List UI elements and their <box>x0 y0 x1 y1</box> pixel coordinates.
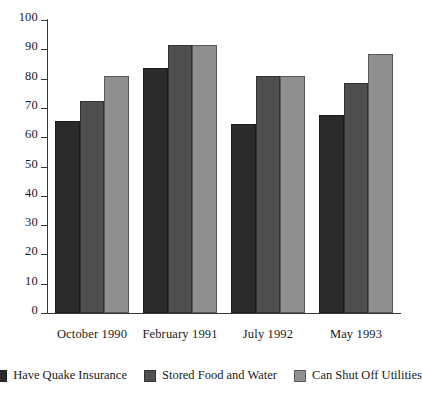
bar <box>192 45 217 313</box>
legend-label: Have Quake Insurance <box>13 368 127 383</box>
bar <box>319 115 344 313</box>
legend-item: Can Shut Off Utilities <box>294 368 422 383</box>
bar-group <box>55 20 129 313</box>
y-axis-tick-mark <box>41 284 48 285</box>
y-axis-tick-mark <box>41 20 48 21</box>
y-axis-tick-mark <box>41 167 48 168</box>
x-axis-label: July 1992 <box>224 327 312 342</box>
legend-item: Have Quake Insurance <box>0 368 127 383</box>
bar <box>168 45 193 313</box>
y-axis-tick-label: 10 <box>25 275 38 287</box>
y-axis-tick-mark <box>41 254 48 255</box>
y-axis-tick-mark <box>41 108 48 109</box>
y-axis-tick-label: 70 <box>25 99 38 111</box>
legend-label: Stored Food and Water <box>162 368 277 383</box>
bar-group <box>319 20 393 313</box>
legend-swatch-icon <box>294 370 306 382</box>
bar <box>231 124 256 313</box>
legend-swatch-icon <box>144 370 156 382</box>
bar <box>55 121 80 313</box>
y-axis-tick-label: 60 <box>25 128 38 140</box>
y-axis-tick-mark <box>41 49 48 50</box>
y-axis-tick-label: 20 <box>25 245 38 257</box>
bar <box>344 83 369 313</box>
x-axis-label: October 1990 <box>48 327 136 342</box>
legend-label: Can Shut Off Utilities <box>312 368 422 383</box>
bar <box>256 76 281 313</box>
y-axis-tick-label: 50 <box>25 158 38 170</box>
y-axis-tick-mark <box>41 196 48 197</box>
plot-area <box>48 20 400 313</box>
bar-group <box>231 20 305 313</box>
y-axis-tick-mark <box>41 225 48 226</box>
y-axis-tick-mark <box>41 79 48 80</box>
y-axis-tick-label: 100 <box>19 11 38 23</box>
bar-group <box>143 20 217 313</box>
y-axis-tick-label: 0 <box>32 304 38 316</box>
y-axis-tick-label: 90 <box>25 40 38 52</box>
y-axis-tick-mark <box>41 137 48 138</box>
y-axis-tick-label: 30 <box>25 216 38 228</box>
bar <box>80 101 105 313</box>
y-axis-tick-mark <box>41 313 48 314</box>
x-axis-label: May 1993 <box>312 327 400 342</box>
bar <box>368 54 393 313</box>
chart-legend: Have Quake InsuranceStored Food and Wate… <box>0 368 417 383</box>
y-axis-tick-label: 80 <box>25 70 38 82</box>
x-axis-label: February 1991 <box>136 327 224 342</box>
bar <box>104 76 129 313</box>
y-axis-tick-label: 40 <box>25 187 38 199</box>
legend-swatch-icon <box>0 370 7 382</box>
bar <box>143 68 168 313</box>
x-axis-line <box>47 313 401 314</box>
legend-item: Stored Food and Water <box>144 368 277 383</box>
bar <box>280 76 305 313</box>
